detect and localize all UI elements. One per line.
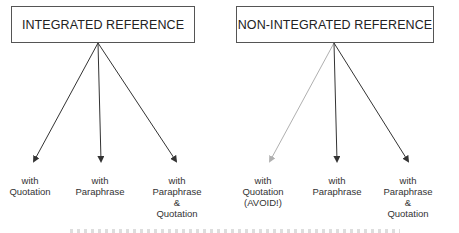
leaf-nonintegrated-quotation-avoid: with Quotation (AVOID!) — [228, 175, 298, 208]
arrow-nonintegrated-quotation — [270, 43, 334, 161]
leaf-nonintegrated-paraphrase-quotation: with Paraphrase & Quotation — [373, 175, 443, 219]
arrow-nonintegrated-paraphrase — [334, 43, 337, 161]
leaf-integrated-quotation: with Quotation — [0, 175, 65, 197]
arrow-integrated-paraphrase — [98, 43, 101, 161]
arrow-nonintegrated-both — [334, 43, 408, 161]
leaf-integrated-paraphrase: with Paraphrase — [65, 175, 135, 197]
arrow-integrated-both — [98, 43, 176, 161]
clipped-caption-line — [70, 229, 400, 233]
leaf-integrated-paraphrase-quotation: with Paraphrase & Quotation — [142, 175, 212, 219]
leaf-nonintegrated-paraphrase: with Paraphrase — [302, 175, 372, 197]
arrow-integrated-quotation — [34, 43, 98, 161]
